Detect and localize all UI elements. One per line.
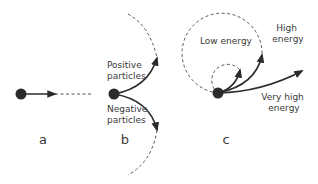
arrow-high-energy — [218, 55, 262, 93]
panel-label-c: c — [222, 132, 229, 147]
label-negative-particles: Negative particles — [107, 104, 150, 125]
dashed-arc-positive — [128, 14, 157, 58]
particle-dot — [16, 89, 27, 100]
particle-dot — [109, 89, 120, 100]
particle-deflection-diagram: a Positive particles Negative particles … — [0, 0, 318, 184]
panel-c: Low energy High energy Very high energy … — [182, 13, 307, 147]
label-high-energy: High energy — [272, 23, 304, 44]
label-low-energy: Low energy — [200, 36, 253, 46]
dashed-arc-negative — [128, 130, 157, 175]
panel-b: Positive particles Negative particles b — [107, 14, 157, 175]
panel-a: a — [16, 89, 93, 148]
panel-label-a: a — [39, 132, 47, 147]
dashed-circle-high-energy — [182, 13, 262, 93]
panel-label-b: b — [121, 132, 129, 147]
label-positive-particles: Positive particles — [107, 60, 146, 81]
label-very-high-energy: Very high energy — [261, 92, 306, 113]
particle-dot — [213, 88, 224, 99]
